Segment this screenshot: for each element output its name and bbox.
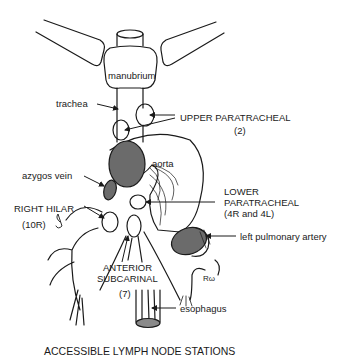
svc-dark — [109, 141, 145, 187]
label-left-pulmonary-artery: left pulmonary artery — [240, 231, 327, 242]
label-aorta: aorta — [152, 158, 174, 169]
trachea-top — [117, 30, 143, 38]
lower-paratracheal-node — [130, 195, 146, 209]
upper-paratracheal-pointer-2 — [125, 118, 175, 130]
anterior-subcarinal-node — [127, 215, 141, 237]
label-azygos-vein: azygos vein — [22, 170, 72, 181]
label-anterior-subcarinal-station: (7) — [119, 288, 131, 299]
label-upper-paratracheal: UPPER PARATRACHEAL — [180, 112, 291, 123]
subcarinal-pointer — [122, 236, 128, 262]
label-right-hilar-station: (10R) — [22, 219, 46, 230]
label-manubrium: manubrium — [108, 70, 156, 81]
azygos-pointer — [84, 176, 104, 186]
label-esophagus: esophagus — [180, 303, 226, 314]
right-clavicle — [161, 22, 224, 66]
label-trachea: trachea — [56, 98, 88, 109]
esophagus-shape — [136, 290, 160, 322]
trachea-pointer — [97, 104, 118, 109]
label-anterior-subcarinal-1: ANTERIOR — [103, 262, 152, 273]
label-anterior-subcarinal-2: SUBCARINAL — [97, 273, 158, 284]
label-lower-paratracheal-1: LOWER — [224, 186, 259, 197]
diagram-caption: ACCESSIBLE LYMPH NODE STATIONS — [44, 345, 235, 357]
label-lower-paratracheal-station: (4R and 4L) — [224, 208, 274, 219]
manubrium-shape — [104, 46, 157, 88]
label-upper-paratracheal-station: (2) — [234, 125, 246, 136]
label-right-hilar: RIGHT HILAR — [14, 203, 74, 214]
esophagus-bottom — [136, 319, 160, 328]
label-lower-paratracheal-2: PARATRACHEAL — [224, 197, 299, 208]
right-hilar-node — [102, 212, 118, 232]
left-clavicle — [36, 20, 105, 66]
trachea-shape — [117, 88, 143, 142]
label-lw-mark: Rω — [203, 273, 215, 284]
